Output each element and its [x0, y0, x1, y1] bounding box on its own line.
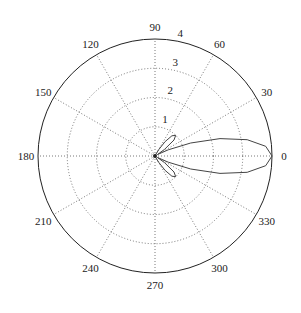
theta-label: 330	[258, 215, 275, 227]
theta-label: 150	[35, 86, 52, 98]
r-label: 4	[178, 27, 184, 39]
r-label: 1	[162, 113, 168, 125]
theta-label: 90	[150, 21, 162, 33]
theta-label: 240	[82, 262, 99, 274]
polar-chart: 03060901201501802102402703003301234	[0, 0, 301, 313]
theta-label: 270	[147, 279, 164, 291]
theta-label: 0	[281, 150, 287, 162]
grid-spoke	[54, 98, 155, 157]
theta-label: 300	[211, 262, 228, 274]
origin-dot	[153, 154, 157, 158]
theta-label: 180	[18, 150, 35, 162]
theta-label: 210	[35, 215, 52, 227]
theta-label: 30	[261, 86, 273, 98]
r-label: 2	[167, 84, 173, 96]
grid-spoke	[97, 156, 156, 257]
theta-label: 120	[82, 38, 99, 50]
grid-spoke	[97, 55, 156, 156]
r-label: 3	[173, 56, 179, 68]
theta-label: 60	[214, 38, 226, 50]
grid-spoke	[54, 156, 155, 215]
